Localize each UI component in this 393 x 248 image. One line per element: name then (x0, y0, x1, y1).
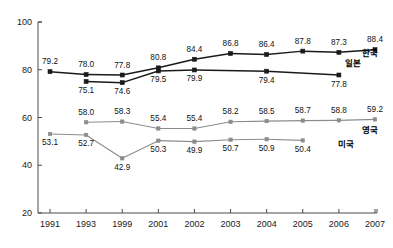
data-point-marker (265, 69, 269, 73)
data-point-label: 86.4 (259, 40, 275, 49)
data-point-marker (192, 57, 196, 61)
data-point-marker (156, 69, 160, 73)
axis-frame (38, 22, 377, 213)
series-label-layer: 한국일본영국미국 (338, 48, 378, 149)
chart-canvas: 2040608010019911993199920012002200320042… (0, 0, 393, 248)
x-axis-tick-label: 2006 (329, 219, 349, 229)
data-point-label: 78.0 (78, 60, 94, 69)
series-line-segment (158, 70, 194, 71)
data-point-label: 53.1 (42, 138, 58, 147)
data-point-marker (265, 52, 269, 56)
data-point-label: 87.3 (331, 38, 347, 47)
line-chart: 2040608010019911993199920012002200320042… (0, 0, 393, 248)
data-point-marker (229, 52, 233, 56)
data-point-marker (84, 73, 88, 77)
data-point-marker (373, 118, 376, 121)
data-point-label: 49.9 (186, 146, 202, 155)
data-point-marker (337, 50, 341, 54)
x-axis-tick-label: 2003 (221, 219, 241, 229)
y-axis-tick-label: 100 (17, 17, 32, 27)
data-point-label: 77.8 (331, 80, 347, 89)
data-point-marker (301, 119, 304, 122)
data-point-label: 86.8 (223, 39, 239, 48)
data-point-marker (84, 79, 88, 83)
data-point-marker (229, 120, 232, 123)
data-point-marker (265, 138, 268, 141)
data-point-marker (193, 127, 196, 130)
data-point-label: 55.4 (186, 114, 202, 123)
data-point-label: 79.9 (186, 74, 202, 83)
data-point-label: 88.4 (367, 35, 383, 44)
series-line-segment (194, 140, 230, 142)
series-line-segment (86, 122, 122, 123)
series-name-label: 영국 (362, 125, 378, 135)
data-point-label: 79.2 (42, 57, 58, 66)
series-line-segment (86, 81, 122, 82)
series-name-label: 일본 (345, 58, 361, 68)
data-point-marker (48, 132, 51, 135)
data-point-marker (48, 70, 52, 74)
series-name-label: 한국 (362, 48, 378, 58)
data-point-marker (193, 140, 196, 143)
x-axis-tick-label: 1993 (76, 219, 96, 229)
data-point-label: 58.3 (114, 107, 130, 116)
y-axis-tick-label: 80 (22, 65, 32, 75)
data-point-label: 50.7 (223, 144, 239, 153)
data-point-label: 79.5 (150, 75, 166, 84)
series-line-segment (194, 70, 266, 71)
series-line-segment (158, 141, 194, 142)
data-point-label: 79.4 (259, 76, 275, 85)
data-point-label: 50.3 (150, 145, 166, 154)
x-axis-tick-label: 2004 (257, 219, 277, 229)
x-axis-tick-label: 2002 (184, 219, 204, 229)
series-line-segment (339, 119, 375, 120)
data-point-label: 75.1 (78, 86, 94, 95)
series-line-segment (231, 54, 267, 55)
data-point-marker (121, 157, 124, 160)
data-point-marker (337, 73, 341, 77)
data-point-label: 87.8 (295, 37, 311, 46)
series-line-segment (303, 51, 339, 52)
x-axis-tick-label: 1991 (40, 219, 60, 229)
data-point-marker (229, 138, 232, 141)
series-line-segment (50, 72, 86, 75)
x-axis-tick-label: 2005 (293, 219, 313, 229)
data-point-label: 55.4 (150, 114, 166, 123)
x-axis-tick-label: 1999 (112, 219, 132, 229)
series-name-label: 미국 (338, 139, 354, 149)
x-axis-tick-label: 2001 (148, 219, 168, 229)
y-axis-tick-label: 40 (22, 160, 32, 170)
data-point-label: 77.8 (114, 61, 130, 70)
series-line-segment (267, 71, 339, 75)
data-point-marker (192, 68, 196, 72)
data-point-label: 80.8 (150, 53, 166, 62)
series-line-segment (194, 54, 230, 60)
data-point-label: 58.0 (78, 108, 94, 117)
data-point-label: 50.9 (259, 144, 275, 153)
data-point-marker (301, 139, 304, 142)
data-point-label: 74.6 (114, 87, 130, 96)
series-line-segment (231, 121, 267, 122)
series-0 (48, 48, 377, 77)
data-point-label: 52.7 (78, 139, 94, 148)
data-point-marker (120, 73, 124, 77)
data-point-marker (120, 81, 124, 85)
data-point-label: 58.7 (295, 106, 311, 115)
x-axis-tick-label: 2007 (365, 219, 385, 229)
series-line-segment (267, 51, 303, 54)
data-point-marker (157, 127, 160, 130)
data-point-marker (157, 139, 160, 142)
data-point-label: 50.4 (295, 145, 311, 154)
series-line-segment (50, 134, 86, 135)
data-point-marker (84, 121, 87, 124)
data-point-marker (265, 119, 268, 122)
data-point-marker (121, 120, 124, 123)
series-2 (84, 118, 376, 130)
series-line-segment (267, 139, 303, 140)
data-point-label: 84.4 (186, 45, 202, 54)
data-point-label: 58.2 (223, 107, 239, 116)
data-point-label: 59.2 (367, 105, 383, 114)
data-point-marker (84, 133, 87, 136)
series-layer (48, 48, 377, 160)
data-point-label: 42.9 (114, 163, 130, 172)
